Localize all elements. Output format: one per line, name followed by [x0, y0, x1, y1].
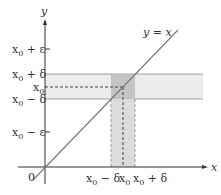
identity-line	[33, 30, 178, 180]
svg-text:x0 + δ: x0 + δ	[12, 68, 47, 83]
svg-text:x0 − δ: x0 − δ	[12, 93, 47, 108]
y-axis-label: y	[40, 5, 48, 18]
svg-text:x0 − ε: x0 − ε	[12, 126, 46, 141]
svg-text:x0: x0	[119, 172, 130, 187]
x-tick-labels: x0 − δ x0 x0 + δ	[86, 172, 168, 187]
y-tick-labels: x0 + ε x0 + δ x0 x0 − δ x0 − ε	[12, 43, 47, 141]
diagram-canvas: y x 0 y = x x0 + ε x0 + δ x0 x0 − δ x0 −…	[0, 0, 221, 195]
svg-text:x0 + ε: x0 + ε	[12, 43, 46, 58]
y-arrow-icon	[43, 19, 47, 25]
x-arrow-icon	[202, 165, 208, 169]
line-label: y = x	[142, 26, 172, 39]
epsilon-delta-diagram: y x 0 y = x x0 + ε x0 + δ x0 x0 − δ x0 −…	[0, 0, 221, 195]
svg-text:x0 + δ: x0 + δ	[133, 172, 168, 187]
x-axis-label: x	[211, 161, 218, 174]
svg-text:x0 − δ: x0 − δ	[86, 172, 121, 187]
origin-label: 0	[28, 171, 35, 184]
